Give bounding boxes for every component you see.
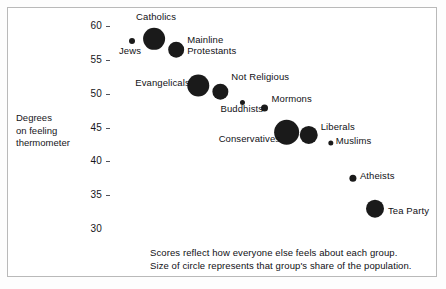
label-line: Conservatives	[219, 133, 281, 144]
label-line: Muslims	[336, 135, 372, 146]
bubble-jews[interactable]	[129, 38, 135, 44]
bubble-liberals[interactable]	[300, 126, 318, 144]
label-line: Mormons	[272, 93, 312, 104]
label-line: Not Religious	[231, 71, 289, 82]
bubble-mainline-protestants[interactable]	[168, 42, 184, 58]
label-line: Buddhists	[220, 103, 263, 114]
label-line: Liberals	[321, 121, 355, 132]
chart-caption: Scores reflect how everyone else feels a…	[150, 247, 412, 272]
bubble-muslims[interactable]	[328, 141, 333, 146]
bubble-atheists[interactable]	[349, 175, 356, 182]
label-line: Evangelicals	[135, 77, 190, 88]
caption-line-2: Size of circle represents that group's s…	[150, 260, 412, 273]
label-conservatives: Conservatives	[219, 133, 281, 144]
label-muslims: Muslims	[336, 135, 372, 146]
bubble-not-religious[interactable]	[212, 84, 228, 100]
label-atheists: Atheists	[360, 170, 395, 181]
label-evangelicals: Evangelicals	[135, 77, 190, 88]
label-mainline-protestants: MainlineProtestants	[187, 34, 245, 56]
label-jews: Jews	[119, 45, 141, 56]
label-catholics: Catholics	[136, 11, 176, 22]
label-buddhists: Buddhists	[220, 103, 263, 114]
chart-screenshot: Degreeson feelingthermometer 30354045505…	[0, 0, 446, 289]
label-line: Tea Party	[388, 205, 429, 216]
label-liberals: Liberals	[321, 121, 355, 132]
bubble-evangelicals[interactable]	[187, 75, 209, 97]
bubble-tea-party[interactable]	[366, 200, 384, 218]
caption-line-1: Scores reflect how everyone else feels a…	[150, 247, 412, 260]
label-not-religious: Not Religious	[231, 71, 289, 82]
label-line: Atheists	[360, 170, 395, 181]
label-line: Jews	[119, 45, 141, 56]
label-tea-party: Tea Party	[388, 205, 429, 216]
label-line: Catholics	[136, 11, 176, 22]
label-line: Protestants	[187, 45, 245, 56]
label-mormons: Mormons	[272, 93, 312, 104]
bubble-catholics[interactable]	[143, 28, 165, 50]
label-line: Mainline	[187, 34, 245, 45]
